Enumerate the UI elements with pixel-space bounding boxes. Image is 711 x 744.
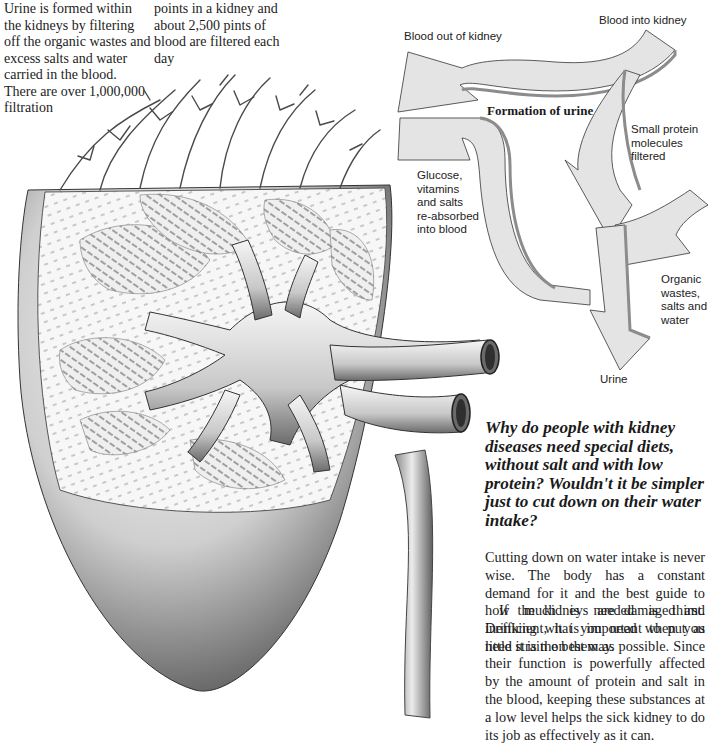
question-heading: Why do people with kidney diseases need … <box>485 419 705 531</box>
label-blood-out-of-kidney: Blood out of kidney <box>404 30 502 44</box>
label-blood-into-kidney: Blood into kidney <box>599 14 687 28</box>
label-small-protein-filtered: Small protein molecules filtered <box>631 123 698 164</box>
label-reabsorbed-into-blood: Glucose, vitamins and salts re-absorbed … <box>417 169 479 237</box>
label-organic-wastes: Organic wastes, salts and water <box>661 273 707 327</box>
answer-paragraph-2: If the kidneys are damaged and inefficie… <box>485 602 705 744</box>
label-urine: Urine <box>600 373 627 387</box>
diagram-title: Formation of urine <box>487 103 593 119</box>
